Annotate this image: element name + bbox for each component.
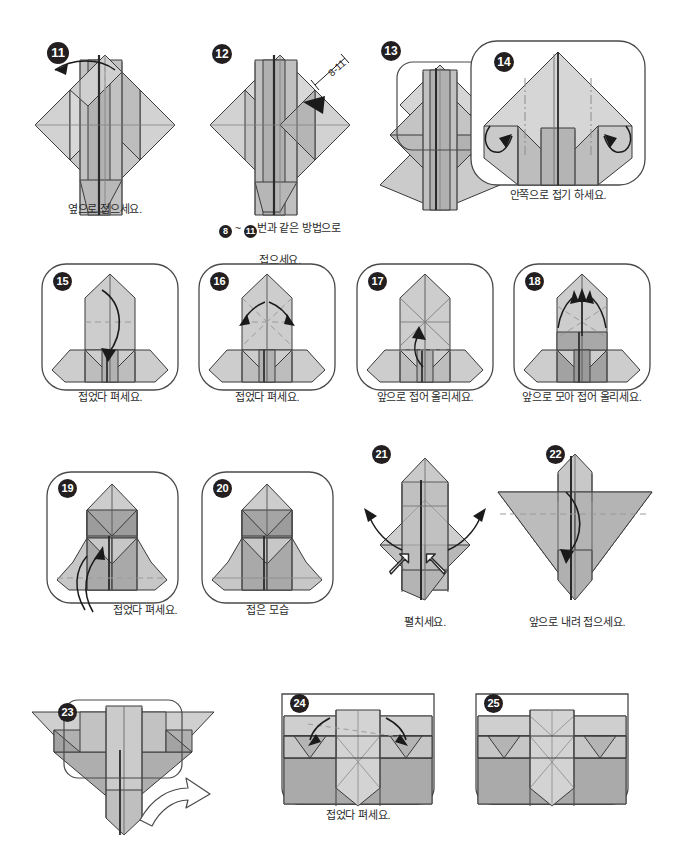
step-20-caption: 접은 모습: [190, 603, 345, 618]
step-20-badge: 20: [213, 479, 232, 498]
step-22-diagram: [480, 440, 670, 610]
step-18-caption: 앞으로 모아 접어 올리세요.: [498, 390, 666, 405]
step-17-badge: 17: [368, 272, 387, 291]
step-24-caption: 접었다 펴세요.: [278, 808, 438, 823]
instruction-sheet: 옆으로 접으세요. 옆으로 접으세요. 11: [0, 0, 682, 855]
step-23-diagram: [18, 690, 238, 840]
step-12-annotation-label: 8-11: [326, 57, 348, 78]
step-15-badge: 15: [53, 272, 72, 291]
step-19-badge: 19: [58, 479, 77, 498]
step-18-badge: 18: [525, 272, 544, 291]
caption-tail: 번과 같은 방법으로: [257, 222, 341, 234]
step-12-caption: 8 ~ 11번과 같은 방법으로 접으세요.: [175, 206, 385, 268]
step-11-badge: 11: [47, 42, 69, 64]
step-23-badge: 23: [58, 703, 77, 722]
step-22-badge: 22: [546, 445, 565, 464]
step-14-badge: 14: [494, 52, 514, 72]
step-25-badge: 25: [484, 694, 503, 713]
step-22: 앞으로 내려 접으세요.: [480, 440, 670, 610]
caption-sep: ~: [232, 222, 244, 234]
step-15-caption: 접었다 펴세요.: [30, 390, 190, 405]
step-16-badge: 16: [210, 272, 229, 291]
step-14-caption: 안쪽으로 접기 하세요.: [468, 188, 648, 203]
step-17-caption: 앞으로 접어 올리세요.: [345, 390, 505, 405]
step-11-diagram: [10, 30, 200, 220]
step-13-badge: 13: [381, 41, 401, 61]
step-11: 옆으로 접으세요.: [10, 30, 200, 220]
step-21-caption: 펼치세요.: [345, 615, 505, 630]
step-16-caption: 접었다 펴세요.: [187, 390, 347, 405]
step-24-badge: 24: [290, 694, 309, 713]
step-11-caption-visible: 옆으로 접으세요.: [10, 202, 200, 217]
step-12-badge: 12: [212, 44, 232, 64]
step-22-caption: 앞으로 내려 접으세요.: [492, 615, 662, 630]
inline-badge-8: 8: [219, 225, 232, 238]
step-21-badge: 21: [372, 445, 391, 464]
inline-badge-11: 11: [244, 225, 257, 238]
step-23: [18, 690, 238, 840]
